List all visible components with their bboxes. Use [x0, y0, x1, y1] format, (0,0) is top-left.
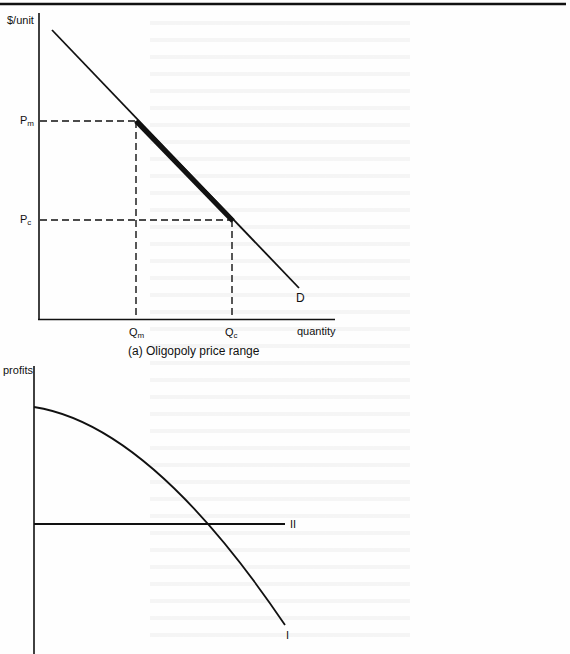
diagram-canvas — [0, 0, 570, 654]
qm-label-sub: m — [138, 331, 145, 340]
qc-label-main: Q — [225, 326, 234, 338]
panel-a-caption: (a) Oligopoly price range — [128, 344, 259, 358]
pc-label: Pc — [20, 213, 31, 229]
panel-b-profits — [34, 366, 285, 654]
pc-label-sub: c — [27, 218, 31, 227]
pm-label-sub: m — [27, 119, 34, 128]
curve-II-label: II — [290, 518, 296, 530]
qc-label: Qc — [225, 326, 238, 342]
qm-label: Qm — [129, 326, 144, 342]
price-axis-label: $/unit — [7, 14, 34, 26]
quantity-axis-label: quantity — [297, 325, 336, 337]
diagram-page: $/unit Pm Pc Qm Qc D quantity (a) Oligop… — [0, 0, 570, 654]
profit-curve-I — [34, 407, 285, 625]
profits-axis-label: profits — [3, 364, 33, 376]
demand-curve-label: D — [296, 292, 305, 304]
curve-I-label: I — [286, 629, 289, 641]
qm-label-main: Q — [129, 326, 138, 338]
pm-label: Pm — [20, 114, 34, 130]
qc-label-sub: c — [234, 331, 238, 340]
panel-a-oligopoly-price-range — [38, 13, 335, 320]
oligopoly-price-range-segment — [136, 121, 233, 221]
